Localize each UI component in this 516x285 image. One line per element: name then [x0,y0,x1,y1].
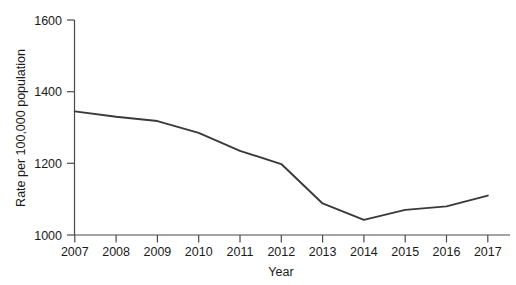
y-tick-label-1400: 1400 [34,85,62,99]
x-tick-label-2010: 2010 [185,245,213,259]
y-axis-title: Rate per 100,000 population [14,49,28,207]
x-tick-label-2013: 2013 [309,245,337,259]
y-tick-label-1000: 1000 [34,229,62,243]
chart-figure: 1600 1400 1200 1000 Rate per 100,000 pop… [0,0,516,285]
x-tick-label-2008: 2008 [102,245,130,259]
data-series-line [75,111,488,220]
x-tick-label-2009: 2009 [143,245,171,259]
x-tick-label-2015: 2015 [391,245,419,259]
y-axis-group: 1600 1400 1200 1000 Rate per 100,000 pop… [14,14,75,243]
x-axis-group: 2007 2008 2009 2010 2011 2012 2013 2014 … [61,235,510,279]
x-tick-label-2007: 2007 [61,245,89,259]
x-tick-label-2011: 2011 [227,245,254,259]
y-tick-label-1200: 1200 [34,157,62,171]
x-axis-title: Year [268,265,293,279]
x-tick-label-2016: 2016 [433,245,461,259]
x-tick-label-2012: 2012 [267,245,295,259]
y-tick-label-1600: 1600 [34,14,62,28]
x-tick-label-2014: 2014 [350,245,378,259]
line-chart-plot: 1600 1400 1200 1000 Rate per 100,000 pop… [0,0,516,285]
x-tick-label-2017: 2017 [474,245,502,259]
